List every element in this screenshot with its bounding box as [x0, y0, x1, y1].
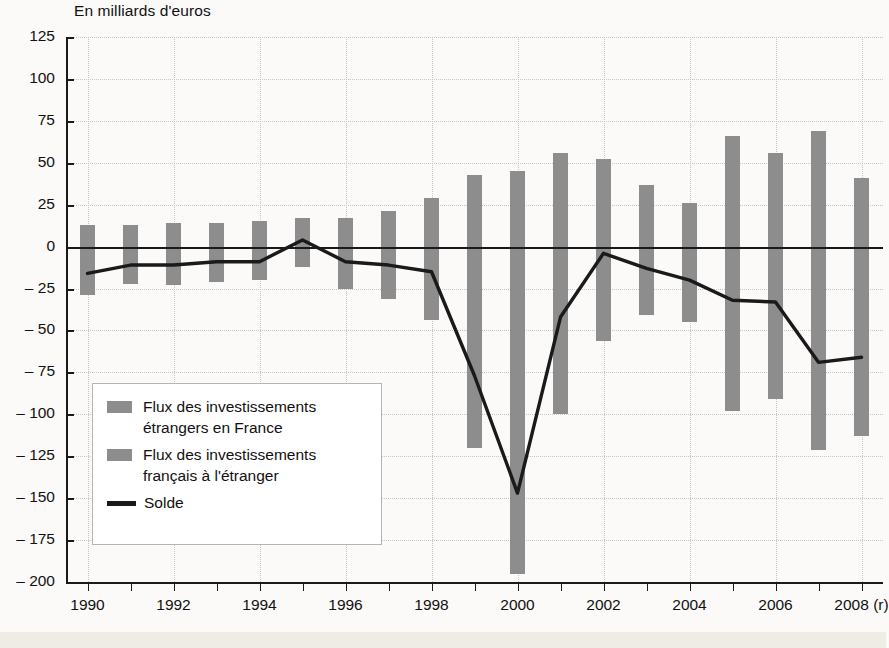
y-axis-tick-label: – 125	[16, 446, 55, 464]
x-axis-tick-mark	[346, 582, 347, 591]
y-axis-tick-label: 50	[38, 153, 55, 171]
y-axis-tick-label: 0	[46, 237, 55, 255]
x-axis-tick-mark	[217, 582, 218, 591]
x-axis-tick-label: 1996	[328, 596, 362, 614]
legend-label: Flux des investissements français à l'ét…	[143, 444, 316, 486]
x-axis-tick-mark	[432, 582, 433, 591]
legend-swatch-icon	[107, 401, 132, 413]
legend-line-icon	[107, 501, 136, 506]
x-axis-tick-mark	[690, 582, 691, 591]
x-axis-tick-mark	[819, 582, 820, 591]
legend-item-1: Flux des investissements français à l'ét…	[107, 444, 316, 486]
x-axis-tick-label: 2004	[672, 596, 706, 614]
y-axis-tick-label: – 25	[25, 279, 55, 297]
x-axis-tick-mark	[174, 582, 175, 591]
y-axis-tick-label: 75	[38, 111, 55, 129]
legend-swatch-icon	[107, 449, 132, 461]
x-axis-tick-mark	[647, 582, 648, 591]
x-axis-tick-label: 2000	[500, 596, 534, 614]
y-axis-tick-label: – 200	[16, 572, 55, 590]
x-axis-tick-mark	[303, 582, 304, 591]
x-axis-tick-label: 2002	[586, 596, 620, 614]
legend-label: Solde	[144, 492, 184, 513]
y-axis-tick-label: – 75	[25, 362, 55, 380]
x-axis-tick-label: 2006	[758, 596, 792, 614]
y-axis-tick-label: – 150	[16, 488, 55, 506]
x-axis-tick-mark	[604, 582, 605, 591]
x-axis-tick-label: 1998	[414, 596, 448, 614]
x-axis-tick-mark	[88, 582, 89, 591]
y-axis-tick-label: – 100	[16, 404, 55, 422]
y-axis-tick-label: 125	[29, 27, 55, 45]
x-axis-tick-mark	[389, 582, 390, 591]
chart-legend: Flux des investissements étrangers en Fr…	[92, 383, 382, 545]
x-axis-tick-label: 2008 (r)	[834, 596, 888, 614]
x-axis-tick-mark	[131, 582, 132, 591]
x-axis-tick-mark	[475, 582, 476, 591]
x-axis-tick-mark	[862, 582, 863, 591]
y-axis-tick-label: – 50	[25, 320, 55, 338]
y-axis-tick-mark	[66, 582, 74, 584]
y-axis-tick-label: 100	[29, 69, 55, 87]
x-axis-tick-mark	[776, 582, 777, 591]
x-axis-tick-label: 1990	[70, 596, 104, 614]
y-axis-unit-title: En milliards d'euros	[74, 2, 211, 20]
x-axis-tick-mark	[518, 582, 519, 591]
x-axis-tick-mark	[561, 582, 562, 591]
legend-item-0: Flux des investissements étrangers en Fr…	[107, 396, 316, 438]
x-axis-tick-mark	[733, 582, 734, 591]
y-axis-tick-label: – 175	[16, 530, 55, 548]
legend-item-2: Solde	[107, 492, 184, 513]
x-axis-tick-label: 1992	[156, 596, 190, 614]
y-axis-tick-label: 25	[38, 195, 55, 213]
legend-label: Flux des investissements étrangers en Fr…	[143, 396, 316, 438]
x-axis-tick-label: 1994	[242, 596, 276, 614]
page-bottom-band	[0, 632, 886, 648]
x-axis-tick-mark	[260, 582, 261, 591]
